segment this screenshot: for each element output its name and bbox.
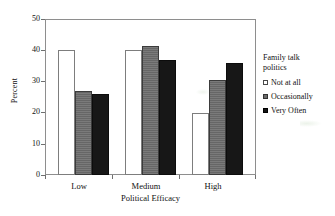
y-tick-label-10: 10	[16, 140, 40, 148]
gray-square-icon	[263, 94, 268, 99]
bar-medium-very-often	[159, 60, 176, 175]
bar-low-not-at-all	[58, 50, 75, 175]
x-tick-mark-left-edge	[45, 175, 46, 179]
legend-label-not-at-all: Not at all	[271, 78, 301, 88]
y-tick-label-40: 40	[16, 46, 40, 54]
legend-title: Family talk politics	[263, 53, 335, 72]
legend-item-occasionally: Occasionally	[263, 92, 335, 102]
y-tick-label-30: 30	[16, 77, 40, 85]
legend-label-very-often: Very Often	[271, 106, 306, 116]
bar-low-occasionally	[75, 91, 92, 175]
legend-title-line-2: politics	[263, 63, 287, 72]
bar-high-occasionally	[209, 80, 226, 175]
bar-high-not-at-all	[192, 113, 209, 175]
legend-label-occasionally: Occasionally	[271, 92, 313, 102]
x-tick-mark-1	[112, 175, 113, 179]
y-tick-label-50: 50	[16, 15, 40, 23]
bar-medium-occasionally	[142, 46, 159, 176]
bars-layer	[45, 19, 256, 175]
bar-chart-figure: Percent 50 40 30 20 10 0 Low Medium High…	[0, 0, 335, 216]
legend-item-not-at-all: Not at all	[263, 78, 335, 88]
x-tick-label-medium: Medium	[116, 181, 176, 191]
x-tick-mark-right-edge	[255, 175, 256, 179]
legend: Family talk politics Not at all Occasion…	[263, 53, 335, 120]
bar-low-very-often	[92, 94, 109, 175]
x-tick-mark-2	[179, 175, 180, 179]
x-tick-label-low: Low	[49, 181, 109, 191]
scan-artifact-1	[300, 120, 322, 127]
x-axis-title: Political Efficacy	[45, 193, 256, 203]
legend-item-very-often: Very Often	[263, 106, 335, 116]
x-tick-label-high: High	[183, 181, 243, 191]
black-square-icon	[263, 108, 268, 113]
legend-title-line-1: Family talk	[263, 53, 300, 62]
bar-high-very-often	[226, 63, 243, 175]
bar-medium-not-at-all	[125, 50, 142, 175]
y-tick-label-20: 20	[16, 108, 40, 116]
white-square-icon	[263, 80, 268, 85]
y-tick-label-0: 0	[16, 171, 40, 179]
